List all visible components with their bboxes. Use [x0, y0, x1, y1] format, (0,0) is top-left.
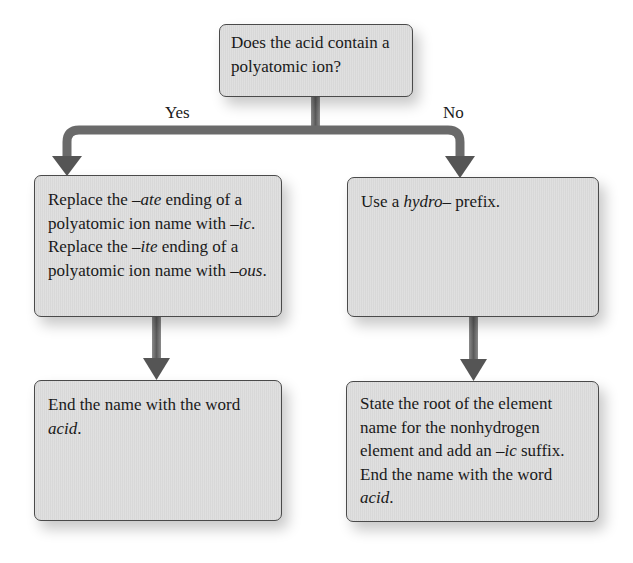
text-run: . [77, 419, 81, 438]
no-step-connector-line [469, 317, 478, 364]
question-line-1: Does the acid contain a [231, 31, 404, 55]
end-with-acid-box: End the name with the word acid. [34, 380, 282, 521]
question-line-2: polyatomic ion? [231, 55, 404, 79]
ite-suffix-text: –ite [132, 237, 158, 256]
yes-step-arrowhead-icon [143, 358, 170, 380]
hydro-prefix-box: Use a hydro– prefix. [347, 177, 599, 317]
text-run: Replace the [48, 190, 132, 209]
question-box: Does the acid contain a polyatomic ion? [219, 24, 413, 97]
ous-suffix-text: –ous [230, 261, 262, 280]
text-run: End the name with the word [48, 395, 240, 414]
yes-step-connector-line [152, 317, 161, 363]
acid-word-text: acid [48, 419, 77, 438]
question-stem-line [311, 97, 320, 130]
text-run: . [389, 488, 393, 507]
ate-suffix-text: –ate [132, 190, 161, 209]
text-run: . [262, 261, 266, 280]
yes-arrowhead-icon [52, 156, 82, 176]
text-run: – prefix. [443, 192, 501, 211]
acid-word-text: acid [360, 488, 389, 507]
hydro-prefix-text: hydro [403, 192, 442, 211]
text-run: Use a [361, 192, 403, 211]
no-step-arrowhead-icon [460, 359, 487, 381]
ic-suffix-text: –ic [230, 214, 251, 233]
no-branch-label: No [443, 103, 464, 123]
yes-branch-label: Yes [165, 103, 190, 123]
no-arrowhead-icon [445, 156, 475, 178]
root-ic-suffix-box: State the root of the element name for t… [346, 381, 599, 522]
branch-split-line [67, 130, 460, 160]
ic-suffix-text: –ic [496, 441, 517, 460]
polyatomic-replace-ending-box: Replace the –ate ending of a polyatomic … [34, 175, 282, 317]
